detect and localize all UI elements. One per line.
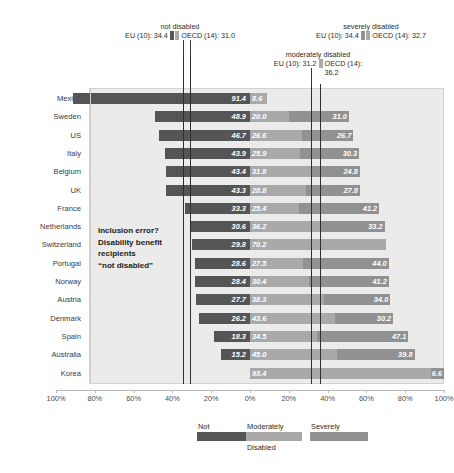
annotation-eu-value: EU (10): 31.2 bbox=[274, 59, 317, 68]
bar-segment-not-disabled: 28.6 bbox=[195, 258, 250, 269]
legend: NotModeratelySeverelyDisabled bbox=[0, 420, 454, 460]
annotation-title: moderately disabled bbox=[228, 50, 408, 59]
annotation-swatches bbox=[319, 59, 323, 68]
bar-segment-severely-disabled: 44.0 bbox=[303, 258, 388, 269]
bar-value-label: 45.0 bbox=[252, 350, 266, 359]
x-axis-tick-label: 60% bbox=[346, 394, 386, 403]
bar-value-label: 6.6 bbox=[432, 369, 442, 378]
x-axis-tick-label: 60% bbox=[114, 394, 154, 403]
leader-line-not-oecd bbox=[190, 40, 191, 56]
annotation-eu-value: EU (10): 34.4 bbox=[125, 31, 168, 40]
annotation-swatches bbox=[170, 31, 180, 40]
bar-value-label: 28.4 bbox=[232, 277, 248, 286]
bar-value-label: 27.7 bbox=[232, 295, 248, 304]
bar-segment-moderately-disabled: 8.6 bbox=[250, 93, 267, 104]
bar-segment-not-disabled: 91.4 bbox=[73, 93, 250, 104]
bar-value-label: 47.1 bbox=[392, 332, 406, 341]
bar-value-label: 20.0 bbox=[252, 112, 266, 121]
bar-segment-moderately-disabled: 27.5 bbox=[250, 258, 303, 269]
bar-value-label: 34.5 bbox=[252, 332, 266, 341]
bar-segment-moderately-disabled: 28.8 bbox=[250, 185, 306, 196]
swatch-oecd bbox=[366, 31, 370, 40]
bar-row: 26.243.630.2 bbox=[0, 313, 454, 324]
annotation-severely-disabled: severely disabled EU (10): 34.4 OECD (14… bbox=[288, 22, 454, 40]
bar-value-label: 91.4 bbox=[232, 94, 248, 103]
ref-not-oecd bbox=[190, 56, 191, 384]
bar-segment-moderately-disabled: 25.4 bbox=[250, 203, 299, 214]
bar-row: 29.870.2 bbox=[0, 239, 454, 250]
bar-segment-not-disabled: 30.6 bbox=[191, 221, 250, 232]
annotation-title: severely disabled bbox=[288, 22, 454, 31]
bar-segment-not-disabled: 27.7 bbox=[196, 294, 250, 305]
x-axis-tick-label: 100% bbox=[36, 394, 76, 403]
legend-swatch bbox=[197, 432, 246, 441]
x-axis-tick bbox=[172, 390, 173, 393]
bar-segment-not-disabled: 18.3 bbox=[214, 331, 250, 342]
bar-value-label: 43.6 bbox=[252, 314, 266, 323]
bar-segment-moderately-disabled: 25.9 bbox=[250, 148, 300, 159]
bar-value-label: 26.6 bbox=[252, 131, 266, 140]
bar-segment-moderately-disabled: 43.6 bbox=[250, 313, 335, 324]
annotation-oecd-value-cont: 36.2 bbox=[325, 68, 339, 77]
x-axis-tick-label: 100% bbox=[424, 394, 454, 403]
bar-row: 30.636.233.2 bbox=[0, 221, 454, 232]
bar-row: 43.925.930.3 bbox=[0, 148, 454, 159]
swatch-oecd bbox=[175, 31, 179, 40]
bar-row: 93.46.6 bbox=[0, 368, 454, 379]
bar-value-label: 30.3 bbox=[343, 149, 357, 158]
bar-segment-severely-disabled: 24.8 bbox=[312, 166, 360, 177]
bar-segment-not-disabled: 46.7 bbox=[159, 130, 250, 141]
bar-row: 27.738.334.0 bbox=[0, 294, 454, 305]
bar-value-label: 38.3 bbox=[252, 295, 266, 304]
swatch-eu bbox=[170, 31, 174, 40]
x-axis-tick-label: 80% bbox=[385, 394, 425, 403]
bar-segment-severely-disabled: 26.7 bbox=[302, 130, 354, 141]
bar-segment-moderately-disabled: 93.4 bbox=[250, 368, 431, 379]
bar-value-label: 31.8 bbox=[252, 167, 266, 176]
bar-value-label: 24.8 bbox=[343, 167, 357, 176]
annotation-oecd-value: OECD (14): bbox=[325, 59, 363, 68]
annotation-oecd-value: OECD (14): 32.7 bbox=[372, 31, 426, 40]
ref-not-eu bbox=[183, 56, 184, 384]
bar-segment-severely-disabled: 34.0 bbox=[324, 294, 390, 305]
x-axis-tick bbox=[289, 390, 290, 393]
bar-segment-not-disabled: 29.8 bbox=[192, 239, 250, 250]
annotation-moderately-disabled: moderately disabled EU (10): 31.2 OECD (… bbox=[228, 50, 408, 77]
bar-value-label: 93.4 bbox=[252, 369, 266, 378]
x-axis-tick-label: 20% bbox=[269, 394, 309, 403]
bar-value-label: 8.6 bbox=[252, 94, 262, 103]
bar-segment-severely-disabled: 39.8 bbox=[337, 349, 414, 360]
bar-value-label: 30.6 bbox=[232, 222, 248, 231]
bar-segment-moderately-disabled: 26.6 bbox=[250, 130, 302, 141]
x-axis-tick-label: 40% bbox=[152, 394, 192, 403]
bar-value-label: 30.2 bbox=[377, 314, 391, 323]
x-axis-tick bbox=[56, 390, 57, 393]
bar-value-label: 28.6 bbox=[232, 259, 248, 268]
bar-segment-severely-disabled: 27.8 bbox=[306, 185, 360, 196]
x-axis-tick-label: 40% bbox=[308, 394, 348, 403]
bar-value-label: 33.2 bbox=[368, 222, 382, 231]
bar-value-label: 26.2 bbox=[232, 314, 248, 323]
bar-value-label: 43.4 bbox=[232, 167, 248, 176]
bar-value-label: 29.8 bbox=[232, 240, 248, 249]
bar-segment-not-disabled: 28.4 bbox=[195, 276, 250, 287]
bar-segment-moderately-disabled: 20.0 bbox=[250, 111, 289, 122]
bar-value-label: 25.9 bbox=[252, 149, 266, 158]
bar-value-label: 30.4 bbox=[252, 277, 266, 286]
bar-row: 43.431.824.8 bbox=[0, 166, 454, 177]
x-axis-tick bbox=[444, 390, 445, 393]
bar-segment-not-disabled: 48.9 bbox=[155, 111, 250, 122]
x-axis-tick-label: 80% bbox=[75, 394, 115, 403]
bar-value-label: 15.2 bbox=[232, 350, 248, 359]
bar-value-label: 70.2 bbox=[252, 240, 266, 249]
bar-segment-severely-disabled: 6.6 bbox=[431, 368, 444, 379]
x-axis-tick-label: 20% bbox=[191, 394, 231, 403]
bar-row: 91.48.6 bbox=[0, 93, 454, 104]
bar-segment-moderately-disabled: 31.8 bbox=[250, 166, 312, 177]
bar-row: 46.726.626.7 bbox=[0, 130, 454, 141]
bar-row: 43.328.827.8 bbox=[0, 185, 454, 196]
bar-row: 15.245.039.8 bbox=[0, 349, 454, 360]
annotation-not-disabled: not disabled EU (10): 34.4 OECD (14): 31… bbox=[100, 22, 260, 40]
bar-value-label: 28.8 bbox=[252, 186, 266, 195]
leader-line-not-eu bbox=[183, 40, 184, 56]
